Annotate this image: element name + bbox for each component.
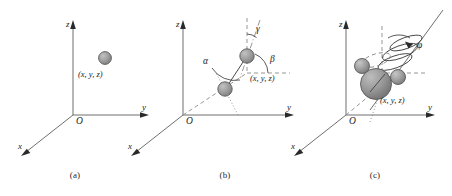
axis-label-y: y: [286, 102, 291, 112]
axis-label-x: x: [290, 141, 295, 151]
axis-z: [180, 20, 186, 115]
axis-label-z: z: [338, 19, 343, 29]
origin-label: O: [186, 116, 193, 126]
axis-label-y: y: [427, 102, 432, 112]
guide-line-radial: [183, 73, 247, 115]
panel-c-caption: (c): [300, 170, 450, 180]
axis-y: [346, 112, 435, 117]
axis-label-x: x: [17, 141, 22, 151]
angle-label-beta: β: [269, 54, 275, 64]
panel-a: z y x O (x, y, z) (a): [0, 0, 150, 196]
panel-c: z y x O: [300, 0, 450, 196]
angle-label-alpha: α: [203, 56, 209, 66]
particle-sphere: [218, 82, 232, 96]
coordinate-label: (x, y, z): [380, 95, 405, 105]
coordinate-label: (x, y, z): [250, 73, 275, 83]
panel-b: z y x O γ β: [150, 0, 300, 196]
origin-label: O: [349, 116, 356, 126]
panel-b-diagram: z y x O γ β: [150, 0, 300, 196]
angle-arc-beta: [255, 54, 268, 73]
origin-label: O: [76, 116, 83, 126]
panel-a-caption: (a): [0, 170, 150, 180]
panel-a-diagram: z y x O (x, y, z): [0, 0, 150, 196]
panel-c-diagram: z y x O: [300, 0, 452, 196]
particle-sphere: [240, 49, 254, 63]
axis-y: [73, 112, 149, 117]
axis-label-z: z: [175, 19, 180, 29]
axis-z: [343, 20, 349, 115]
axis-y: [183, 112, 294, 117]
particle-sphere: [391, 70, 406, 85]
coordinate-label: (x, y, z): [78, 69, 103, 79]
figure-coordinate-systems: z y x O (x, y, z) (a): [0, 0, 452, 196]
axis-label-z: z: [65, 19, 70, 29]
rotation-spiral: [376, 32, 424, 74]
panel-b-caption: (b): [150, 170, 300, 180]
angle-label-phi: φ: [417, 40, 422, 50]
particle-sphere: [99, 52, 112, 65]
angle-label-gamma: γ: [256, 24, 260, 34]
axis-label-y: y: [141, 102, 146, 112]
axis-x: [294, 115, 346, 156]
axis-label-x: x: [127, 141, 132, 151]
axis-z: [70, 20, 76, 115]
axis-x: [21, 115, 73, 156]
